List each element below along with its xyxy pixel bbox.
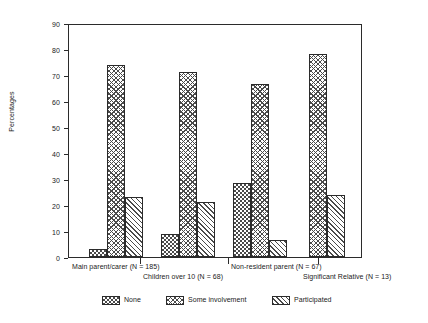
legend-item-participated: Participated <box>272 294 332 306</box>
bar-non-resident-parent-some-involvement <box>251 84 269 257</box>
y-tick-label-90: 90 <box>52 21 60 28</box>
bar-chart-figure: Percentages 90 80 70 60 50 40 30 20 10 0 <box>0 0 428 323</box>
y-tick-label-30: 30 <box>52 177 60 184</box>
y-tick-label-70: 70 <box>52 73 60 80</box>
legend-item-none: None <box>102 294 141 306</box>
x-label-non-resident-parent: Non-resident parent (N = 67) <box>231 263 322 271</box>
bar-significant-relative-participated <box>327 195 345 257</box>
chart-legend: None Some involvement Participated <box>0 294 428 308</box>
bar-main-parent-participated <box>125 197 143 257</box>
y-tick-mark-0 <box>64 258 68 259</box>
x-label-main-parent-carer: Main parent/carer (N = 185) <box>72 263 160 271</box>
bar-main-parent-some-involvement <box>107 65 125 257</box>
legend-swatch-none-icon <box>102 296 120 305</box>
bar-children-over-10-none <box>161 234 179 257</box>
y-tick-label-80: 80 <box>52 47 60 54</box>
bar-non-resident-parent-participated <box>269 240 287 257</box>
y-tick-label-20: 20 <box>52 203 60 210</box>
legend-item-some-involvement: Some involvement <box>166 294 246 306</box>
y-tick-label-10: 10 <box>52 229 60 236</box>
x-label-significant-relative: Significant Relative (N = 13) <box>303 273 391 281</box>
y-tick-label-50: 50 <box>52 125 60 132</box>
y-tick-label-0: 0 <box>56 255 60 262</box>
legend-swatch-participated-icon <box>272 296 290 305</box>
bar-children-over-10-participated <box>197 202 215 257</box>
y-tick-label-40: 40 <box>52 151 60 158</box>
legend-label-some-involvement: Some involvement <box>188 296 246 304</box>
bar-main-parent-none <box>89 249 107 257</box>
legend-label-participated: Participated <box>294 296 332 304</box>
y-tick-label-60: 60 <box>52 99 60 106</box>
bar-children-over-10-some-involvement <box>179 72 197 257</box>
bar-non-resident-parent-none <box>233 183 251 257</box>
y-axis-title: Percentages <box>8 79 15 145</box>
legend-label-none: None <box>124 296 141 304</box>
plot-area <box>68 24 362 258</box>
x-label-children-over-10: Children over 10 (N = 68) <box>143 273 223 281</box>
y-axis: Percentages 90 80 70 60 50 40 30 20 10 0 <box>0 0 68 283</box>
legend-swatch-some-involvement-icon <box>166 296 184 305</box>
bar-significant-relative-some-involvement <box>309 54 327 257</box>
x-axis-separator-2 <box>228 258 229 264</box>
